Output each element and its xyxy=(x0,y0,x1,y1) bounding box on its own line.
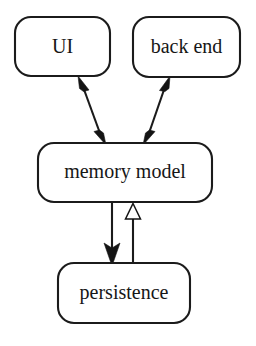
diagram-canvas: UI back end memory model persistence xyxy=(0,0,256,346)
edge-ui-memory-model-arrowhead-up xyxy=(78,76,89,92)
edge-back-end-memory-model xyxy=(143,76,170,145)
node-persistence-label: persistence xyxy=(80,281,169,304)
edge-persistence-to-memory-model-arrowhead xyxy=(126,204,141,220)
node-back-end[interactable]: back end xyxy=(133,17,240,77)
architecture-diagram: UI back end memory model persistence xyxy=(0,0,256,346)
node-ui-label: UI xyxy=(52,35,73,57)
edge-ui-memory-model-line xyxy=(82,84,101,136)
node-back-end-label: back end xyxy=(151,35,223,57)
edge-memory-model-to-persistence xyxy=(104,202,120,266)
node-ui[interactable]: UI xyxy=(15,17,110,76)
edge-back-end-memory-model-arrowhead-up xyxy=(160,76,171,92)
node-memory-model[interactable]: memory model xyxy=(38,143,212,202)
edge-back-end-memory-model-line xyxy=(148,84,166,136)
edge-persistence-to-memory-model xyxy=(126,204,141,264)
node-memory-model-label: memory model xyxy=(64,160,186,183)
node-persistence[interactable]: persistence xyxy=(58,263,190,323)
edge-ui-memory-model xyxy=(78,76,106,145)
